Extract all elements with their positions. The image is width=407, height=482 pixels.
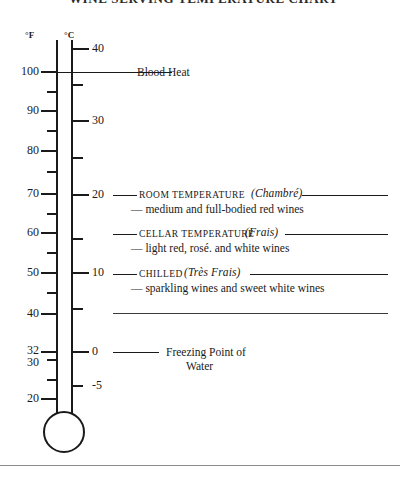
tick-c-40 bbox=[73, 48, 89, 50]
chilled-detail: — sparkling wines and sweet white wines bbox=[131, 282, 325, 295]
tick-c-5 bbox=[73, 308, 83, 310]
label-f-80: 80 bbox=[27, 144, 39, 156]
label-f-40: 40 bbox=[27, 307, 39, 319]
chilled-label: Chilled bbox=[139, 268, 183, 281]
thermometer-chart: WINE SERVING TEMPERATURE CHART °F °C 100… bbox=[0, 0, 407, 482]
tick-c-minus5 bbox=[73, 385, 83, 387]
label-f-100: 100 bbox=[21, 65, 39, 77]
label-c-0: 0 bbox=[92, 345, 98, 357]
label-f-60: 60 bbox=[27, 226, 39, 238]
tick-c-35 bbox=[73, 84, 83, 86]
label-f-50: 50 bbox=[27, 266, 39, 278]
celsius-unit-label: °C bbox=[64, 30, 75, 40]
label-c-30: 30 bbox=[92, 114, 104, 126]
freezing-point-leader bbox=[113, 352, 159, 353]
label-c-20: 20 bbox=[92, 188, 104, 200]
tick-f-25 bbox=[47, 379, 57, 381]
page-title: WINE SERVING TEMPERATURE CHART bbox=[0, 0, 407, 3]
tick-f-32 bbox=[41, 351, 57, 353]
tick-f-50 bbox=[41, 272, 57, 274]
label-f-30: 30 bbox=[27, 356, 39, 368]
tick-c-25 bbox=[73, 157, 83, 159]
freezing-point-label-line1: Freezing Point of bbox=[166, 345, 246, 359]
tick-f-80 bbox=[41, 150, 57, 152]
cellar-temperature-leader-right bbox=[285, 234, 388, 235]
tick-c-30 bbox=[73, 120, 89, 122]
cellar-temperature-leader-left bbox=[113, 234, 137, 235]
tick-f-40 bbox=[41, 313, 57, 315]
room-temperature-leader-left bbox=[113, 195, 137, 196]
label-c-minus5: -5 bbox=[92, 379, 102, 391]
thermometer-bulb bbox=[43, 411, 85, 453]
tick-f-45 bbox=[47, 292, 57, 294]
tick-f-60 bbox=[41, 232, 57, 234]
tick-c-0 bbox=[73, 351, 89, 353]
label-f-20: 20 bbox=[27, 392, 39, 404]
room-temperature-detail: — medium and full-bodied red wines bbox=[131, 203, 304, 216]
room-temperature-french-label: (Chambré) bbox=[251, 187, 302, 200]
tick-c-10 bbox=[73, 272, 89, 274]
fahrenheit-unit-label: °F bbox=[25, 30, 35, 40]
freezing-point-label-line2: Water bbox=[186, 359, 213, 373]
tick-f-55 bbox=[47, 252, 57, 254]
label-c-10: 10 bbox=[92, 266, 104, 278]
room-temperature-leader-right bbox=[302, 195, 388, 196]
tick-f-95 bbox=[47, 91, 57, 93]
label-c-40: 40 bbox=[92, 42, 104, 54]
page-bottom-rule bbox=[0, 465, 400, 466]
tick-c-20 bbox=[73, 194, 89, 196]
cellar-temperature-label: Cellar Temperature bbox=[139, 228, 254, 241]
label-f-70: 70 bbox=[27, 187, 39, 199]
forty-degree-rule bbox=[113, 313, 388, 314]
blood-heat-label: Blood Heat bbox=[137, 65, 190, 79]
tick-f-90 bbox=[41, 110, 57, 112]
tick-f-65 bbox=[47, 213, 57, 215]
chilled-leader-left bbox=[113, 274, 137, 275]
cellar-temperature-french-label: (Frais) bbox=[245, 226, 278, 239]
thermometer-stem-right bbox=[71, 40, 73, 416]
tick-f-70 bbox=[41, 193, 57, 195]
tick-f-75 bbox=[47, 171, 57, 173]
cellar-temperature-detail: — light red, rosé. and white wines bbox=[131, 242, 289, 255]
chilled-french-label: (Très Frais) bbox=[184, 266, 240, 279]
tick-f-85 bbox=[47, 130, 57, 132]
room-temperature-label: Room Temperature bbox=[139, 189, 245, 202]
tick-f-100 bbox=[41, 71, 57, 73]
chilled-leader-right bbox=[250, 274, 388, 275]
label-f-90: 90 bbox=[27, 104, 39, 116]
tick-f-20 bbox=[41, 398, 57, 400]
tick-f-30 bbox=[47, 359, 57, 361]
tick-c-15 bbox=[73, 238, 83, 240]
